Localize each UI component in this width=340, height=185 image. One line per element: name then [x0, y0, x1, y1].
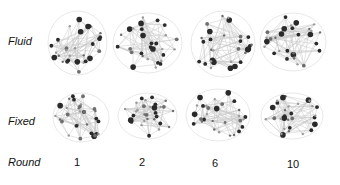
row-label-fluid: Fluid: [8, 35, 32, 47]
network-fixed-2: [115, 90, 180, 142]
network-fluid-1: [45, 8, 110, 78]
network-fixed-6: [183, 86, 253, 144]
network-fixed-10: [258, 90, 326, 142]
network-fixed-1: [50, 90, 112, 145]
round-label-10: 10: [278, 158, 308, 170]
round-label-2: 2: [127, 156, 157, 168]
network-fluid-2: [110, 10, 185, 76]
round-label-6: 6: [200, 157, 230, 169]
network-fluid-6: [188, 8, 258, 80]
round-label-1: 1: [62, 156, 92, 168]
row-label-fixed: Fixed: [8, 115, 35, 127]
row-label-round: Round: [8, 156, 40, 168]
network-fluid-10: [257, 10, 329, 74]
